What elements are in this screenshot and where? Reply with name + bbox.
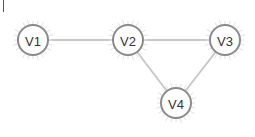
node-v2[interactable]: V2: [108, 20, 149, 61]
node-v3[interactable]: V3: [205, 20, 246, 61]
node-v4[interactable]: V4: [156, 83, 197, 124]
node-label: V3: [217, 34, 233, 49]
node-label: V2: [120, 34, 136, 49]
node-label: V1: [25, 34, 41, 49]
graph-diagram: V1V2V3V4: [0, 0, 255, 137]
node-v1[interactable]: V1: [13, 20, 54, 61]
node-label: V4: [168, 97, 184, 112]
nodes-layer: V1V2V3V4: [13, 20, 246, 124]
